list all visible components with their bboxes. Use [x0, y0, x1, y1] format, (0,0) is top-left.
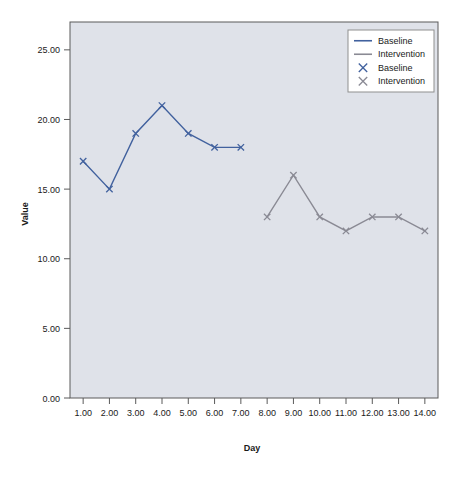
y-tick-label: 10.00: [37, 254, 60, 264]
x-axis-title: Day: [244, 443, 261, 453]
y-axis-title: Value: [20, 202, 30, 226]
y-tick-label: 25.00: [37, 45, 60, 55]
x-tick-label: 11.00: [335, 408, 357, 418]
x-tick-label: 5.00: [180, 408, 198, 418]
legend-label: Baseline: [378, 63, 413, 73]
x-tick-label: 8.00: [258, 408, 276, 418]
x-tick-label: 14.00: [414, 408, 437, 418]
x-tick-label: 7.00: [232, 408, 250, 418]
x-tick-label: 1.00: [74, 408, 92, 418]
x-tick-label: 9.00: [285, 408, 303, 418]
y-tick-label: 20.00: [37, 115, 60, 125]
chart-legend[interactable]: BaselineInterventionBaselineIntervention: [348, 30, 434, 92]
y-tick-label: 0.00: [42, 394, 60, 404]
x-tick-label: 2.00: [101, 408, 119, 418]
x-tick-label: 13.00: [387, 408, 410, 418]
x-tick-label: 4.00: [153, 408, 171, 418]
line-chart: 0.005.0010.0015.0020.0025.00 1.002.003.0…: [0, 0, 460, 479]
y-tick-label: 5.00: [42, 324, 60, 334]
x-tick-label: 6.00: [206, 408, 224, 418]
x-tick-label: 10.00: [308, 408, 331, 418]
y-tick-label: 15.00: [37, 185, 60, 195]
chart-container: 0.005.0010.0015.0020.0025.00 1.002.003.0…: [0, 0, 460, 479]
legend-label: Intervention: [378, 76, 425, 86]
x-tick-label: 3.00: [127, 408, 145, 418]
legend-label: Intervention: [378, 49, 425, 59]
legend-label: Baseline: [378, 36, 413, 46]
x-tick-label: 12.00: [361, 408, 384, 418]
